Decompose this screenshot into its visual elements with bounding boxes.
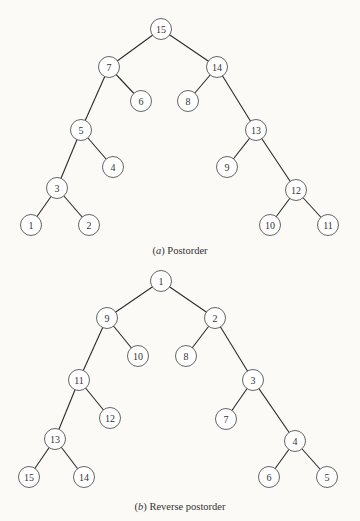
- tree-node-3: 3: [243, 370, 264, 391]
- tree-node-1: 1: [21, 215, 42, 236]
- node-label: 8: [184, 351, 189, 362]
- tree-node-4: 4: [103, 157, 124, 178]
- tree-node-12: 12: [286, 180, 307, 201]
- tree-node-4: 4: [285, 431, 306, 452]
- node-label: 10: [265, 220, 275, 231]
- nodes: 192108113127134151465: [19, 271, 338, 488]
- node-label: 1: [29, 220, 34, 231]
- node-label: 4: [111, 162, 116, 173]
- node-label: 15: [156, 24, 166, 35]
- node-label: 5: [325, 472, 330, 483]
- tree-node-11: 11: [318, 215, 339, 236]
- node-label: 7: [107, 62, 112, 73]
- tree-node-13: 13: [246, 120, 267, 141]
- tree-node-14: 14: [207, 57, 228, 78]
- reverse-postorder-tree: 192108113127134151465: [19, 271, 338, 488]
- caption-label: a: [156, 245, 161, 256]
- tree-node-7: 7: [216, 409, 237, 430]
- tree-node-15: 15: [19, 467, 40, 488]
- node-label: 14: [79, 472, 89, 483]
- edge-3-4: [253, 380, 295, 441]
- tree-node-15: 15: [151, 19, 172, 40]
- tree-node-2: 2: [205, 308, 226, 329]
- node-label: 5: [79, 125, 84, 136]
- tree-node-5: 5: [71, 120, 92, 141]
- node-label: 9: [225, 162, 230, 173]
- caption-text: Postorder: [167, 245, 207, 256]
- node-label: 6: [139, 96, 144, 107]
- caption-reverse-postorder: (b) Reverse postorder: [0, 501, 360, 512]
- tree-node-12: 12: [100, 408, 121, 429]
- tree-node-13: 13: [45, 429, 66, 450]
- tree-node-10: 10: [128, 346, 149, 367]
- node-label: 12: [105, 413, 115, 424]
- caption-text: Reverse postorder: [149, 501, 225, 512]
- tree-node-11: 11: [69, 370, 90, 391]
- node-label: 10: [133, 351, 143, 362]
- tree-node-3: 3: [47, 178, 68, 199]
- tree-node-6: 6: [259, 467, 280, 488]
- node-label: 1: [159, 276, 164, 287]
- tree-node-7: 7: [99, 57, 120, 78]
- tree-node-9: 9: [97, 308, 118, 329]
- tree-node-6: 6: [131, 91, 152, 112]
- node-label: 12: [291, 185, 301, 196]
- node-label: 11: [323, 220, 333, 231]
- node-label: 8: [186, 96, 191, 107]
- tree-node-14: 14: [74, 467, 95, 488]
- tree-node-1: 1: [151, 271, 172, 292]
- node-label: 7: [224, 414, 229, 425]
- node-label: 2: [87, 220, 92, 231]
- node-label: 3: [251, 375, 256, 386]
- node-label: 11: [74, 375, 84, 386]
- caption-label: b: [138, 501, 143, 512]
- caption-postorder: (a) Postorder: [0, 245, 360, 256]
- node-label: 2: [213, 313, 218, 324]
- node-label: 4: [293, 436, 298, 447]
- node-label: 13: [251, 125, 261, 136]
- node-label: 15: [24, 472, 34, 483]
- tree-diagrams: 157146851349312121011 192108113127134151…: [0, 0, 360, 521]
- node-label: 3: [55, 183, 60, 194]
- tree-node-8: 8: [176, 346, 197, 367]
- node-label: 9: [105, 313, 110, 324]
- postorder-tree: 157146851349312121011: [21, 19, 339, 236]
- node-label: 13: [50, 434, 60, 445]
- nodes: 157146851349312121011: [21, 19, 339, 236]
- node-label: 6: [267, 472, 272, 483]
- tree-node-10: 10: [260, 215, 281, 236]
- edge-14-13: [217, 67, 256, 130]
- node-label: 14: [212, 62, 222, 73]
- tree-node-9: 9: [217, 157, 238, 178]
- tree-node-2: 2: [79, 215, 100, 236]
- tree-node-5: 5: [317, 467, 338, 488]
- tree-node-8: 8: [178, 91, 199, 112]
